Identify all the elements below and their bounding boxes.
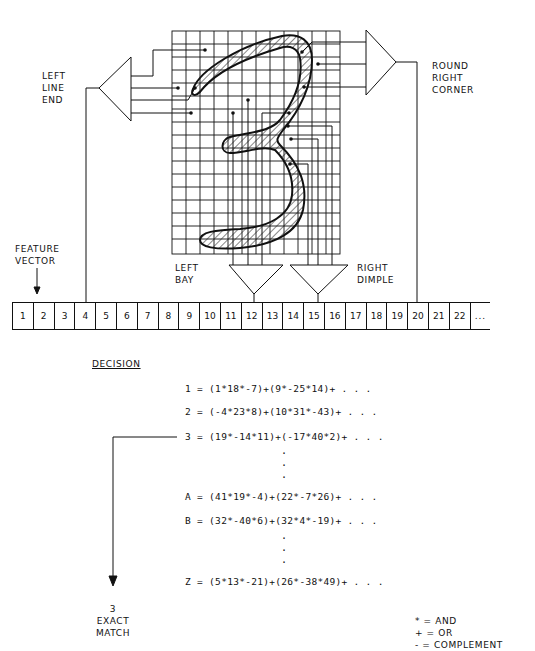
left-bay-label: LEFT BAY	[175, 262, 199, 286]
ellipsis-dots: ···	[281, 533, 287, 569]
feature-cell: 20	[407, 303, 428, 329]
feature-cell: 17	[345, 303, 366, 329]
feature-cell: 4	[74, 303, 95, 329]
exact-match-result: 3 EXACT MATCH	[94, 603, 132, 639]
legend-item: - = COMPLEMENT	[415, 639, 503, 651]
feature-vector: 1 2 3 4 5 6 7 8 9 10 11 12 13 14 15 16 1…	[12, 302, 490, 330]
feature-cell: 8	[158, 303, 179, 329]
decision-equation: 2 = (-4*23*8)+(10*31*-43)+ . . .	[185, 406, 378, 417]
feature-cell: 16	[324, 303, 345, 329]
feature-cell: 11	[220, 303, 241, 329]
feature-cell: 22	[449, 303, 470, 329]
feature-cell: 19	[386, 303, 407, 329]
legend-item: + = OR	[415, 627, 503, 639]
feature-cell: 12	[241, 303, 262, 329]
decision-equation: 3 = (19*-14*11)+(-17*40*2)+ . . .	[185, 431, 384, 442]
digit-three-glyph	[192, 35, 312, 248]
feature-cell-ellipsis: ...	[470, 303, 491, 329]
feature-cell: 21	[428, 303, 449, 329]
feature-cell: 14	[282, 303, 303, 329]
decision-equation: A = (41*19*-4)+(22*-7*26)+ . . .	[185, 491, 378, 502]
legend-item: * = AND	[415, 615, 503, 627]
feature-cell: 15	[303, 303, 324, 329]
feature-vector-label: FEATURE VECTOR	[15, 243, 60, 267]
operator-legend: * = AND + = OR - = COMPLEMENT	[415, 615, 503, 651]
feature-cell: 10	[199, 303, 220, 329]
feature-cell: 9	[178, 303, 199, 329]
decision-title: DECISION	[92, 359, 141, 369]
feature-cell: 1	[12, 303, 33, 329]
right-dimple-label: RIGHT DIMPLE	[357, 262, 394, 286]
decision-equation: B = (32*-40*6)+(32*4*-19)+ . . .	[185, 515, 378, 526]
ellipsis-dots: ···	[281, 448, 287, 484]
feature-cell: 6	[116, 303, 137, 329]
left-line-end-label: LEFT LINE END	[42, 70, 66, 106]
feature-cell: 7	[137, 303, 158, 329]
round-right-corner-label: ROUND RIGHT CORNER	[432, 60, 474, 96]
feature-cell: 18	[366, 303, 387, 329]
feature-vector-arrow	[34, 268, 40, 294]
feature-cell: 2	[33, 303, 54, 329]
decision-equation: Z = (5*13*-21)+(26*-38*49)+ . . .	[185, 576, 384, 587]
decision-equation: 1 = (1*18*-7)+(9*-25*14)+ . . .	[185, 383, 372, 394]
match-arrow	[109, 437, 177, 586]
feature-cell: 3	[54, 303, 75, 329]
feature-cell: 5	[95, 303, 116, 329]
feature-cell: 13	[262, 303, 283, 329]
